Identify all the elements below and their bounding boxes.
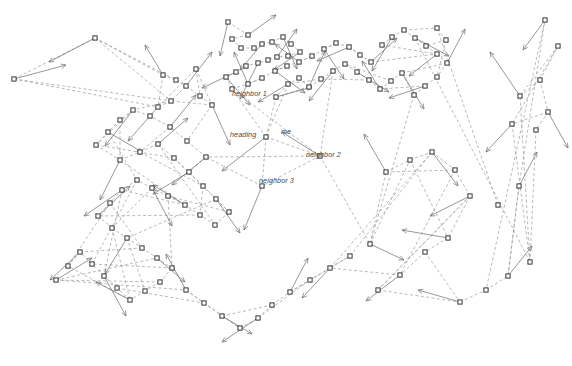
label-neighbor-3: neighbor 3 [259,177,294,184]
network-diagram-canvas: neighbor 1 heading me neighbor 2 neighbo… [0,0,572,366]
label-heading: heading [230,131,256,138]
label-me: me [281,128,291,135]
label-neighbor-1: neighbor 1 [232,90,267,97]
label-neighbor-2: neighbor 2 [306,151,341,158]
